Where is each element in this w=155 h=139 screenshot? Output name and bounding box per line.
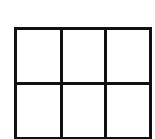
grid-vertical-line-1 [60,27,63,139]
grid-right-border [149,27,152,139]
grid-top-border [14,27,152,30]
grid-left-border [14,27,17,139]
grid-vertical-line-2 [104,27,107,139]
grid-middle-horizontal-line [14,82,152,85]
grid-diagram [14,27,152,139]
grid-bottom-border [14,137,152,139]
